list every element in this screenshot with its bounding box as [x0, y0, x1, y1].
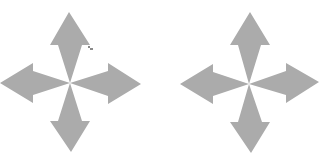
move-arrows-icon: [0, 0, 164, 167]
cursor-artifact-icon: [88, 46, 93, 50]
move-arrows-icon: [164, 0, 328, 167]
